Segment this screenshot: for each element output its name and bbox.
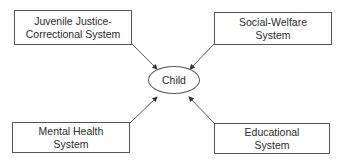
- node-mental-health: Mental Health System: [12, 122, 130, 153]
- node-social-welfare: Social-Welfare System: [214, 12, 332, 45]
- node-label-line: System: [39, 138, 104, 151]
- edge-mental-to-child: [130, 97, 157, 123]
- center-node-label: Child: [162, 74, 186, 86]
- center-node-child: Child: [148, 66, 200, 94]
- node-label-line: Mental Health: [39, 125, 104, 138]
- node-label-line: System: [239, 29, 307, 42]
- edge-educational-to-child: [189, 97, 214, 123]
- node-label-line: Social-Welfare: [239, 16, 307, 29]
- edge-juvenile-to-child: [132, 44, 157, 69]
- edge-social-to-child: [190, 44, 214, 69]
- node-juvenile-justice: Juvenile Justice- Correctional System: [14, 10, 132, 45]
- node-label-line: System: [245, 139, 300, 152]
- node-educational: Educational System: [214, 123, 330, 154]
- node-label-line: Juvenile Justice-: [26, 15, 121, 28]
- node-label-line: Educational: [245, 126, 300, 139]
- node-label-line: Correctional System: [26, 28, 121, 41]
